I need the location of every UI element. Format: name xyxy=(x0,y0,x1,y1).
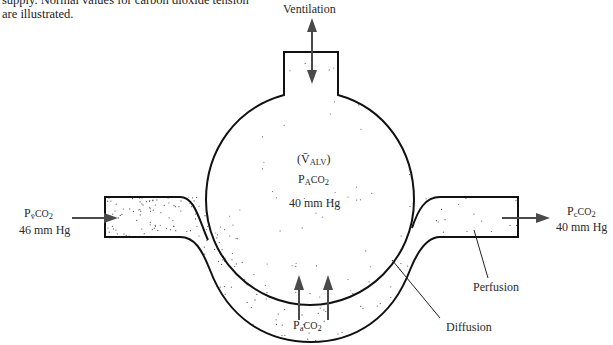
co2-dot xyxy=(322,217,323,218)
co2-dot xyxy=(190,256,191,257)
co2-dot xyxy=(409,206,410,207)
co2-dot xyxy=(220,320,221,321)
co2-dot xyxy=(105,293,106,294)
co2-dot xyxy=(178,206,179,207)
co2-dot xyxy=(337,255,338,256)
co2-dot xyxy=(341,285,342,286)
co2-dot xyxy=(118,286,119,287)
co2-dot xyxy=(139,290,140,291)
co2-dot xyxy=(427,321,428,322)
co2-dot xyxy=(284,254,285,255)
alveolar-ventilation-label: (V̄ALV) xyxy=(297,152,330,169)
co2-dot xyxy=(515,200,516,201)
co2-dot xyxy=(394,324,395,325)
co2-dot xyxy=(282,255,283,256)
co2-dot xyxy=(257,264,258,265)
co2-dot xyxy=(324,321,325,322)
co2-dot xyxy=(170,305,171,306)
co2-dot xyxy=(276,197,277,198)
co2-dot xyxy=(125,325,126,326)
co2-dot xyxy=(331,256,332,257)
co2-dot xyxy=(232,253,233,254)
co2-dot xyxy=(187,291,188,292)
co2-dot xyxy=(217,234,218,235)
co2-dot xyxy=(368,333,369,334)
co2-dot xyxy=(198,206,199,207)
co2-dot xyxy=(220,226,221,227)
co2-dot xyxy=(119,257,120,258)
co2-dot xyxy=(366,215,367,216)
co2-dot xyxy=(179,248,180,249)
co2-dot xyxy=(447,288,448,289)
co2-dot xyxy=(237,238,238,239)
co2-dot xyxy=(483,247,484,248)
co2-dot xyxy=(222,249,223,250)
co2-dot xyxy=(154,228,155,229)
co2-dot xyxy=(315,262,316,263)
co2-dot xyxy=(472,304,473,305)
co2-dot xyxy=(511,247,512,248)
co2-dot xyxy=(204,254,205,255)
co2-dot xyxy=(105,322,106,323)
co2-dot xyxy=(295,266,296,267)
co2-dot xyxy=(124,333,125,334)
co2-dot xyxy=(133,211,134,212)
co2-dot xyxy=(358,104,359,105)
co2-dot xyxy=(173,205,174,206)
co2-dot xyxy=(115,263,116,264)
venous-pco2-value: 46 mm Hg xyxy=(19,223,70,237)
co2-dot xyxy=(443,232,444,233)
co2-dot xyxy=(473,214,474,215)
co2-dot xyxy=(150,224,151,225)
co2-dot xyxy=(180,238,181,239)
co2-dot xyxy=(320,307,321,308)
co2-dot xyxy=(168,202,169,203)
co2-dot xyxy=(274,275,275,276)
co2-dot xyxy=(177,244,178,245)
co2-dot xyxy=(275,234,276,235)
co2-dot xyxy=(184,249,185,250)
co2-dot xyxy=(130,329,131,330)
co2-dot xyxy=(264,261,265,262)
co2-dot xyxy=(177,259,178,260)
co2-dot xyxy=(172,321,173,322)
co2-dot xyxy=(195,214,196,215)
co2-dot xyxy=(150,332,151,333)
co2-dot xyxy=(126,235,127,236)
co2-dot xyxy=(215,232,216,233)
co2-dot xyxy=(259,251,260,252)
co2-dot xyxy=(347,196,348,197)
co2-dot xyxy=(156,199,157,200)
co2-dot xyxy=(295,281,296,282)
co2-dot xyxy=(254,302,255,303)
co2-dot xyxy=(311,301,312,302)
co2-dot xyxy=(108,341,109,342)
co2-dot xyxy=(209,285,210,286)
co2-dot xyxy=(256,294,257,295)
co2-dot xyxy=(157,244,158,245)
co2-dot xyxy=(105,287,106,288)
co2-dot xyxy=(330,113,331,114)
co2-dot xyxy=(169,217,170,218)
co2-dot xyxy=(248,254,249,255)
arterial-pco2-label: PaCO2 xyxy=(293,318,322,335)
co2-dot xyxy=(166,255,167,256)
co2-dot xyxy=(247,99,248,100)
co2-dot xyxy=(175,206,176,207)
co2-dot xyxy=(397,299,398,300)
co2-dot xyxy=(321,264,322,265)
co2-dot xyxy=(232,224,233,225)
co2-dot xyxy=(244,279,245,280)
co2-dot xyxy=(417,318,418,319)
co2-dot xyxy=(128,303,129,304)
co2-dot xyxy=(181,341,182,342)
co2-dot xyxy=(176,322,177,323)
co2-dot xyxy=(316,265,317,266)
co2-dot xyxy=(162,324,163,325)
co2-dot xyxy=(112,214,113,215)
co2-dot xyxy=(507,248,508,249)
co2-dot xyxy=(205,331,206,332)
co2-dot xyxy=(295,292,296,293)
co2-dot xyxy=(142,204,143,205)
co2-dot xyxy=(390,286,391,287)
